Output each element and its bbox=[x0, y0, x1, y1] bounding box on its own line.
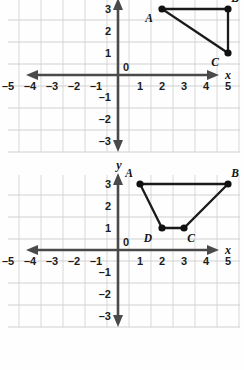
bottom-xtick-7: 3 bbox=[181, 255, 187, 267]
bottom-ytick-3: –1 bbox=[99, 266, 111, 278]
top-xtick-6: 2 bbox=[159, 80, 165, 92]
bottom-xtick-8: 4 bbox=[203, 255, 210, 267]
bottom-point-label-b: B bbox=[230, 167, 239, 179]
top-xtick-1: –4 bbox=[24, 80, 37, 92]
bottom-ytick-0: 3 bbox=[105, 178, 111, 190]
bottom-xtick-3: –2 bbox=[68, 255, 80, 267]
top-ytick-2: 1 bbox=[105, 47, 111, 59]
top-xtick-0: –5 bbox=[2, 80, 14, 92]
bottom-y-axis-label: y bbox=[114, 158, 122, 172]
top-ytick-0: 3 bbox=[105, 3, 111, 15]
bottom-vertex-b bbox=[224, 180, 231, 187]
bottom-polygon bbox=[140, 184, 228, 228]
bottom-ytick-4: –2 bbox=[99, 288, 111, 300]
bottom-ytick-2: 1 bbox=[105, 222, 111, 234]
bottom-ytick-1: 2 bbox=[105, 200, 111, 212]
bottom-point-label-c: C bbox=[187, 232, 195, 244]
top-vertex-a bbox=[158, 5, 165, 12]
top-axes bbox=[26, 0, 219, 152]
top-ytick-3: –1 bbox=[99, 91, 111, 103]
top-point-label-b: B bbox=[230, 0, 239, 4]
bottom-vertex-a bbox=[136, 180, 143, 187]
top-xtick-5: 1 bbox=[137, 80, 143, 92]
bottom-graph-canvas: –5–4–3–2–112345321–1–2–30xyABCD bbox=[0, 160, 244, 370]
top-ytick-4: –2 bbox=[99, 113, 111, 125]
top-xtick-2: –3 bbox=[46, 80, 58, 92]
top-xtick-8: 4 bbox=[203, 80, 210, 92]
bottom-point-label-a: A bbox=[124, 167, 133, 179]
bottom-xtick-0: –5 bbox=[2, 255, 14, 267]
bottom-xtick-6: 2 bbox=[159, 255, 165, 267]
top-ytick-1: 2 bbox=[105, 25, 111, 37]
top-xtick-7: 3 bbox=[181, 80, 187, 92]
top-origin-label: 0 bbox=[123, 61, 129, 73]
top-point-label-a: A bbox=[144, 12, 153, 24]
top-coordinate-plane: –5–4–3–2–112345321–1–2–30xABC bbox=[0, 0, 244, 165]
top-point-label-c: C bbox=[211, 56, 219, 68]
bottom-xtick-2: –3 bbox=[46, 255, 58, 267]
top-xtick-3: –2 bbox=[68, 80, 80, 92]
top-vertex-b bbox=[224, 5, 231, 12]
bottom-coordinate-plane: –5–4–3–2–112345321–1–2–30xyABCD bbox=[0, 160, 244, 370]
bottom-ytick-5: –3 bbox=[99, 310, 111, 322]
bottom-vertex-c bbox=[180, 224, 187, 231]
top-vertex-c bbox=[224, 49, 231, 56]
bottom-origin-label: 0 bbox=[123, 236, 129, 248]
bottom-x-axis-label: x bbox=[224, 243, 231, 257]
top-x-axis-label: x bbox=[224, 68, 231, 82]
top-ytick-5: –3 bbox=[99, 135, 111, 147]
bottom-vertex-d bbox=[158, 224, 165, 231]
bottom-point-label-d: D bbox=[143, 232, 153, 244]
bottom-xtick-1: –4 bbox=[24, 255, 37, 267]
bottom-axes bbox=[26, 173, 219, 327]
bottom-xtick-5: 1 bbox=[137, 255, 143, 267]
top-graph-canvas: –5–4–3–2–112345321–1–2–30xABC bbox=[0, 0, 244, 165]
